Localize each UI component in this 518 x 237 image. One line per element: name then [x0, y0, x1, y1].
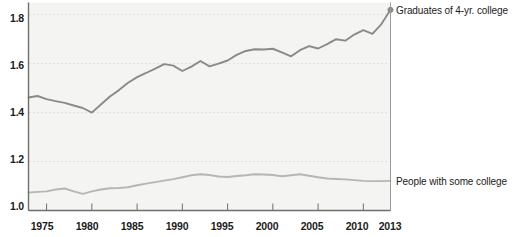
- chart-figure: the wage premium has risen steadily earn…: [0, 0, 518, 237]
- series-label-graduates-4yr-college: Graduates of 4-yr. college: [396, 5, 508, 16]
- plot-area: [0, 0, 518, 237]
- series-label-people-some-college: People with some college: [396, 176, 507, 187]
